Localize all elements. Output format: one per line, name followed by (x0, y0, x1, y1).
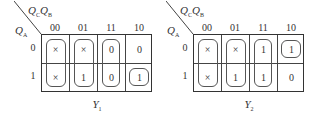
grouping-loop (46, 39, 66, 87)
kmap-y2: QCQB QA 00 01 11 10 0 1 × × 1 1 × 1 1 0 … (152, 0, 312, 118)
row-header: 1 (28, 70, 38, 81)
row-header: 1 (180, 70, 190, 81)
function-label: Y2 (234, 98, 264, 112)
grouping-loop (74, 39, 94, 87)
column-header: 01 (69, 22, 97, 33)
kmap-y1: QCQB QA 00 01 11 10 0 1 × × 0 0 × 1 0 1 … (0, 0, 160, 118)
kmap-grid: × × 1 1 × 1 1 0 (193, 34, 304, 92)
column-header: 00 (193, 22, 221, 33)
grouping-loop (281, 40, 301, 58)
grouping-loop (102, 39, 120, 87)
function-label: Y1 (82, 98, 112, 112)
cell-r0-c10: 0 (126, 35, 153, 63)
column-header: 11 (97, 22, 125, 33)
column-header: 10 (125, 22, 153, 33)
grouping-loop (129, 68, 149, 86)
column-variables-label: QCQB (180, 4, 204, 18)
column-header: 01 (221, 22, 249, 33)
column-header: 11 (249, 22, 277, 33)
row-variable-label: QA (15, 24, 27, 38)
row-variable-label: QA (167, 24, 179, 38)
row-header: 0 (180, 42, 190, 53)
kmap-grid: × × 0 0 × 1 0 1 (41, 34, 152, 92)
cell-r1-c10: 0 (278, 63, 305, 91)
grouping-loop (198, 39, 218, 87)
column-header: 00 (41, 22, 69, 33)
grouping-loop (226, 39, 246, 87)
grouping-loop (254, 39, 272, 87)
row-header: 0 (28, 42, 38, 53)
column-header: 10 (277, 22, 305, 33)
column-variables-label: QCQB (28, 4, 52, 18)
